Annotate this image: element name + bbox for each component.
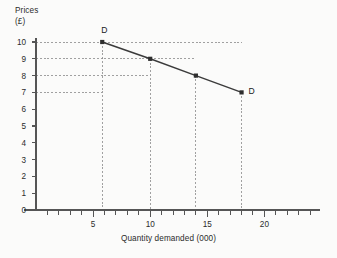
data-point-marker (100, 40, 104, 44)
y-axis-tick-label: 0 (10, 206, 26, 215)
plot-area (0, 0, 337, 258)
series-label-end: D (249, 86, 255, 96)
y-axis-tick-label: 6 (10, 105, 26, 114)
x-axis-tick-label: 10 (140, 220, 160, 229)
y-axis-tick-label: 9 (10, 54, 26, 63)
x-axis-tick-label: 20 (254, 220, 274, 229)
series-label-start: D (101, 25, 107, 35)
y-axis-tick-label: 5 (10, 122, 26, 131)
demand-curve-line (102, 42, 241, 92)
y-axis-tick-label: 8 (10, 71, 26, 80)
y-axis-tick-label: 2 (10, 172, 26, 181)
y-axis-tick-label: 7 (10, 88, 26, 97)
y-axis-tick-label: 1 (10, 189, 26, 198)
x-axis-tick-label: 5 (83, 220, 103, 229)
y-axis-tick-label: 3 (10, 155, 26, 164)
y-axis-tick-label: 10 (10, 38, 26, 47)
y-axis-tick-label: 4 (10, 138, 26, 147)
x-axis-title: Quantity demanded (000) (0, 234, 337, 243)
data-point-marker (194, 74, 198, 78)
demand-curve-chart: Prices (£) Quantity demanded (000) 01234… (0, 0, 337, 258)
data-point-marker (148, 57, 152, 61)
x-axis-tick-label: 15 (197, 220, 217, 229)
data-point-marker (239, 90, 243, 94)
